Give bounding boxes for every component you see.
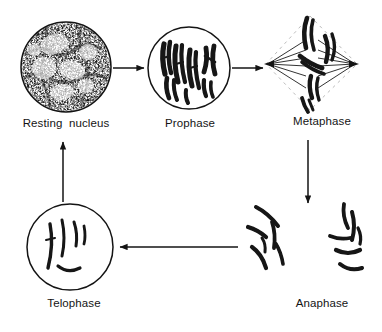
diagram-canvas <box>0 0 382 332</box>
stage-prophase <box>148 27 230 109</box>
stage-resting-nucleus <box>20 21 113 114</box>
anaphase-chromosomes-right <box>330 204 362 269</box>
stage-label-telophase: Telophase <box>14 297 134 310</box>
stage-label-resting-nucleus: Resting nucleus <box>0 117 132 130</box>
anaphase-chromosomes-left <box>248 207 283 268</box>
telophase-chromosomes <box>46 220 85 271</box>
mitosis-cycle-diagram: Resting nucleus Prophase Metaphase Anaph… <box>0 0 382 332</box>
telophase-membrane <box>27 204 113 290</box>
stage-label-metaphase: Metaphase <box>262 115 382 128</box>
stage-metaphase <box>264 16 359 112</box>
stage-label-anaphase: Anaphase <box>262 297 382 310</box>
stage-label-prophase: Prophase <box>140 117 240 130</box>
prophase-chromosomes <box>163 42 215 103</box>
stage-telophase <box>27 204 113 290</box>
spindle-pole-left <box>264 61 274 68</box>
stage-anaphase <box>248 204 362 269</box>
